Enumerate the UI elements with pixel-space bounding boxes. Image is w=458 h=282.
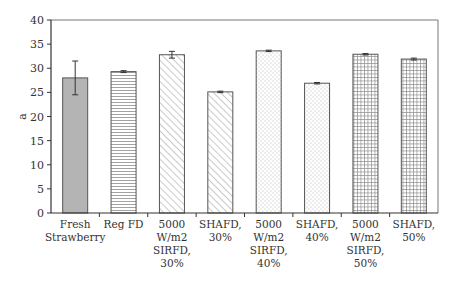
y-tick-label: 5: [37, 183, 44, 196]
bar: [401, 58, 426, 213]
bar: [159, 51, 184, 213]
y-tick-label: 40: [30, 14, 44, 27]
plot-area: [51, 20, 438, 213]
y-axis-title: a: [16, 113, 29, 120]
x-axis: FreshStrawberryReg FD5000W/m2SIRFD,30%SH…: [45, 213, 438, 269]
y-tick-label: 35: [30, 38, 44, 51]
bar: [208, 91, 233, 213]
bar: [111, 71, 136, 213]
x-tick-label: SHAFD,40%: [296, 218, 339, 243]
bar-chart: 0510152025303540a FreshStrawberryReg FD5…: [0, 0, 458, 282]
bar: [63, 61, 88, 213]
y-tick-label: 30: [30, 62, 44, 75]
bar: [256, 50, 281, 213]
bar: [353, 54, 378, 213]
bar: [305, 82, 330, 213]
x-tick-label: SHAFD,30%: [199, 218, 242, 243]
x-tick-label: Reg FD: [104, 218, 144, 230]
x-tick-label: SHAFD,50%: [393, 218, 436, 243]
bars: [63, 50, 427, 213]
x-tick-label: 5000W/m2SIRFD,40%: [250, 218, 288, 269]
y-tick-label: 0: [37, 207, 44, 220]
y-tick-label: 15: [30, 135, 44, 148]
y-axis: 0510152025303540a: [16, 14, 51, 220]
y-tick-label: 10: [30, 159, 44, 172]
y-tick-label: 25: [30, 86, 44, 99]
x-tick-label: 5000W/m2SIRFD,30%: [153, 218, 191, 269]
x-tick-label: 5000W/m2SIRFD,50%: [346, 218, 384, 269]
y-tick-label: 20: [30, 111, 44, 124]
x-tick-label: FreshStrawberry: [45, 218, 106, 243]
